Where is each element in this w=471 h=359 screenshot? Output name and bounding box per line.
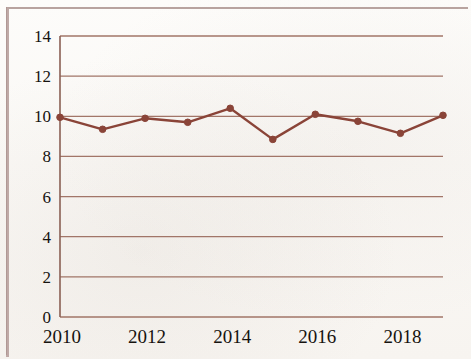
data-point-2015 xyxy=(270,136,277,143)
chart-svg: 14121086420 20102012201420162018 xyxy=(0,0,471,359)
data-point-2011 xyxy=(99,126,106,133)
x-tick-label-2018: 2018 xyxy=(383,326,421,347)
data-point-2017 xyxy=(355,118,362,125)
y-tick-label-6: 6 xyxy=(43,188,52,207)
x-tick-label-2012: 2012 xyxy=(128,326,166,347)
y-tick-label-2: 2 xyxy=(43,268,52,287)
data-line-series-1 xyxy=(60,108,443,139)
gridlines xyxy=(60,36,443,317)
x-tick-label-2016: 2016 xyxy=(298,326,336,347)
y-tick-label-10: 10 xyxy=(34,107,51,126)
line-chart: 14121086420 20102012201420162018 xyxy=(0,0,471,359)
data-point-2014 xyxy=(227,105,234,112)
data-point-2013 xyxy=(184,119,191,126)
x-tick-label-2010: 2010 xyxy=(43,326,81,347)
data-point-2012 xyxy=(142,115,149,122)
x-tick-label-2014: 2014 xyxy=(213,326,252,347)
y-tick-label-14: 14 xyxy=(34,27,52,46)
x-tick-labels: 20102012201420162018 xyxy=(43,326,421,347)
y-tick-label-0: 0 xyxy=(43,308,52,327)
y-tick-labels: 14121086420 xyxy=(34,27,52,327)
y-tick-label-8: 8 xyxy=(43,147,52,166)
data-point-2016 xyxy=(312,111,319,118)
data-point-2010 xyxy=(57,114,64,121)
y-tick-label-4: 4 xyxy=(43,228,52,247)
y-tick-label-12: 12 xyxy=(34,67,51,86)
data-point-2019 xyxy=(440,112,447,119)
data-point-2018 xyxy=(397,130,404,137)
